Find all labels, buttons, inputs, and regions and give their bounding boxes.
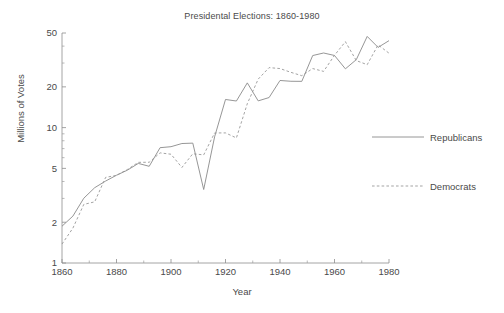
x-tick-label: 1900 xyxy=(160,266,181,277)
y-tick-label: 10 xyxy=(46,122,57,133)
series-line-republicans xyxy=(62,36,389,226)
series-line-democrats xyxy=(62,42,389,244)
legend-swatches xyxy=(372,137,424,186)
x-tick-label: 1920 xyxy=(215,266,236,277)
y-axis-ticks: 125102050 xyxy=(46,27,66,268)
y-tick-label: 50 xyxy=(46,27,57,38)
axes xyxy=(62,33,389,263)
x-tick-label: 1880 xyxy=(106,266,127,277)
y-tick-label: 20 xyxy=(46,81,57,92)
x-axis-ticks: 1860188019001920194019601980 xyxy=(51,259,399,277)
y-tick-label: 2 xyxy=(52,217,57,228)
plot-canvas: 125102050 1860188019001920194019601980 xyxy=(0,0,504,313)
x-tick-label: 1960 xyxy=(324,266,345,277)
x-tick-label: 1860 xyxy=(51,266,72,277)
legend-label-republicans: Republicans xyxy=(430,132,482,143)
chart-figure: Presidental Elections: 1860-1980 Million… xyxy=(0,0,504,313)
legend-label-democrats: Democrats xyxy=(430,181,476,192)
x-tick-label: 1940 xyxy=(269,266,290,277)
data-series xyxy=(62,36,389,244)
y-tick-label: 5 xyxy=(52,163,57,174)
x-tick-label: 1980 xyxy=(378,266,399,277)
